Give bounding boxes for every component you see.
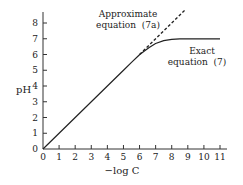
x-tick-label: 9 <box>185 152 191 162</box>
x-tick-label: 4 <box>104 152 110 162</box>
y-tick-label: 8 <box>32 18 38 28</box>
x-tick-label: 10 <box>198 152 210 162</box>
annotation-exact-line1: Exact <box>189 46 215 56</box>
annotation-exact-line2: equation (7) <box>168 57 226 67</box>
chart: 01234567891011 012345678 pH −log C Appro… <box>0 0 243 185</box>
x-ticks: 01234567891011 <box>40 145 226 162</box>
x-tick-label: 2 <box>72 152 78 162</box>
x-tick-label: 5 <box>121 152 127 162</box>
y-tick-label: 0 <box>32 144 38 154</box>
y-tick-label: 4 <box>32 81 38 91</box>
x-tick-label: 6 <box>137 152 143 162</box>
x-axis-title: −log C <box>105 165 140 176</box>
x-tick-label: 3 <box>88 152 94 162</box>
y-tick-label: 2 <box>32 113 38 123</box>
annotation-approximate: Approximate equation (7a) <box>96 9 160 30</box>
y-axis-title: pH <box>16 84 31 95</box>
x-tick-label: 8 <box>169 152 175 162</box>
annotation-approximate-line1: Approximate <box>98 9 158 19</box>
y-tick-label: 3 <box>32 97 38 107</box>
y-tick-label: 1 <box>32 128 38 138</box>
series-group <box>43 10 220 149</box>
annotation-approximate-line2: equation (7a) <box>96 20 160 30</box>
x-tick-label: 1 <box>56 152 62 162</box>
y-tick-label: 6 <box>32 50 38 60</box>
x-tick-label: 11 <box>214 152 225 162</box>
y-tick-label: 7 <box>32 34 38 44</box>
x-tick-label: 7 <box>153 152 159 162</box>
y-ticks: 012345678 <box>32 18 47 154</box>
axes <box>43 12 227 149</box>
annotation-exact: Exact equation (7) <box>168 46 226 67</box>
x-tick-label: 0 <box>40 152 46 162</box>
y-tick-label: 5 <box>32 65 38 75</box>
